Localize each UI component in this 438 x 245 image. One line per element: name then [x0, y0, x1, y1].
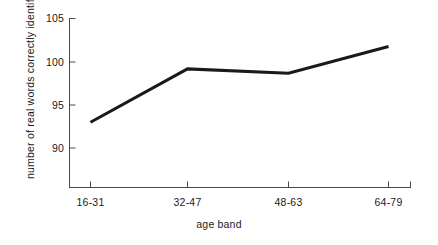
chart-figure: 105 100 95 90 16-31 32-47 48-63 64-79 ag… [0, 0, 438, 245]
y-tick-label-105: 105 [38, 12, 64, 24]
y-axis-title-container: number of real words correctly identifie… [0, 0, 40, 190]
x-tick-label-32-47: 32-47 [157, 196, 218, 208]
x-tick-label-64-79: 64-79 [358, 196, 419, 208]
x-tick-label-16-31: 16-31 [60, 196, 121, 208]
x-tick-label-48-63: 48-63 [258, 196, 319, 208]
y-tick-label-95: 95 [38, 99, 64, 111]
data-series-line [91, 47, 389, 123]
y-tick-label-100: 100 [38, 56, 64, 68]
chart-plot-area [0, 0, 438, 245]
y-tick-label-90: 90 [38, 142, 64, 154]
y-axis-title: number of real words correctly identifie… [24, 9, 36, 179]
x-axis-title: age band [0, 218, 438, 230]
